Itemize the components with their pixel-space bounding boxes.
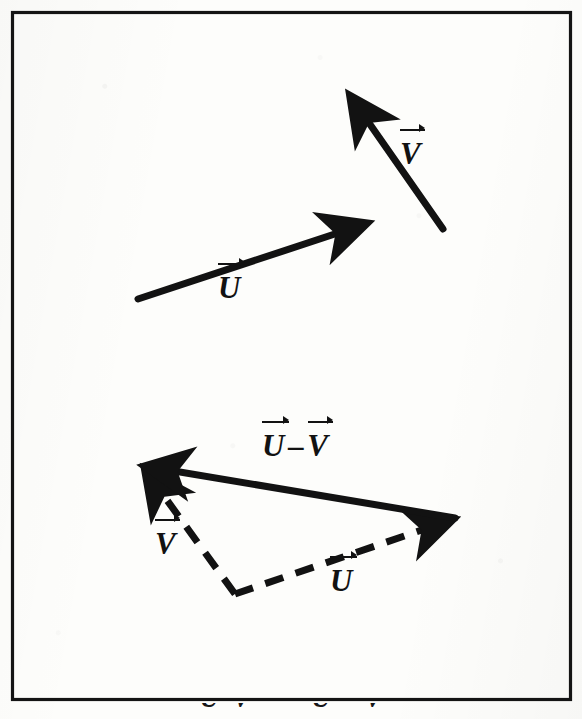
figure-caption-text: U–V U V: [0, 703, 582, 714]
caption-right-glyph: V: [232, 703, 250, 714]
label-u-minus-v-left-glyph: U: [262, 430, 284, 461]
label-vector-u-minus-v: U–V: [262, 430, 328, 461]
label-vector-v-free: V: [400, 138, 421, 169]
caption-extra-left-glyph: U: [311, 703, 331, 714]
caption-operator: –: [219, 703, 233, 713]
label-vector-u-dashed: U: [330, 565, 352, 596]
vector-diagram-canvas: [0, 0, 582, 719]
caption-left-glyph: U: [199, 703, 219, 714]
label-v-dashed-glyph: V: [155, 528, 176, 559]
figure-caption-clipped: U–V U V: [0, 703, 582, 719]
figure-root: U V U–V V U U–V U V: [0, 0, 582, 719]
figure-frame: [13, 13, 571, 700]
label-u-free-glyph: U: [218, 272, 240, 303]
label-u-minus-v-right-glyph: V: [307, 430, 328, 461]
minus-operator: –: [284, 430, 307, 461]
label-vector-u-free: U: [218, 272, 240, 303]
label-v-free-glyph: V: [400, 138, 421, 169]
label-vector-v-dashed: V: [155, 528, 176, 559]
caption-extra-right-glyph: V: [365, 703, 383, 714]
label-u-dashed-glyph: U: [330, 565, 352, 596]
